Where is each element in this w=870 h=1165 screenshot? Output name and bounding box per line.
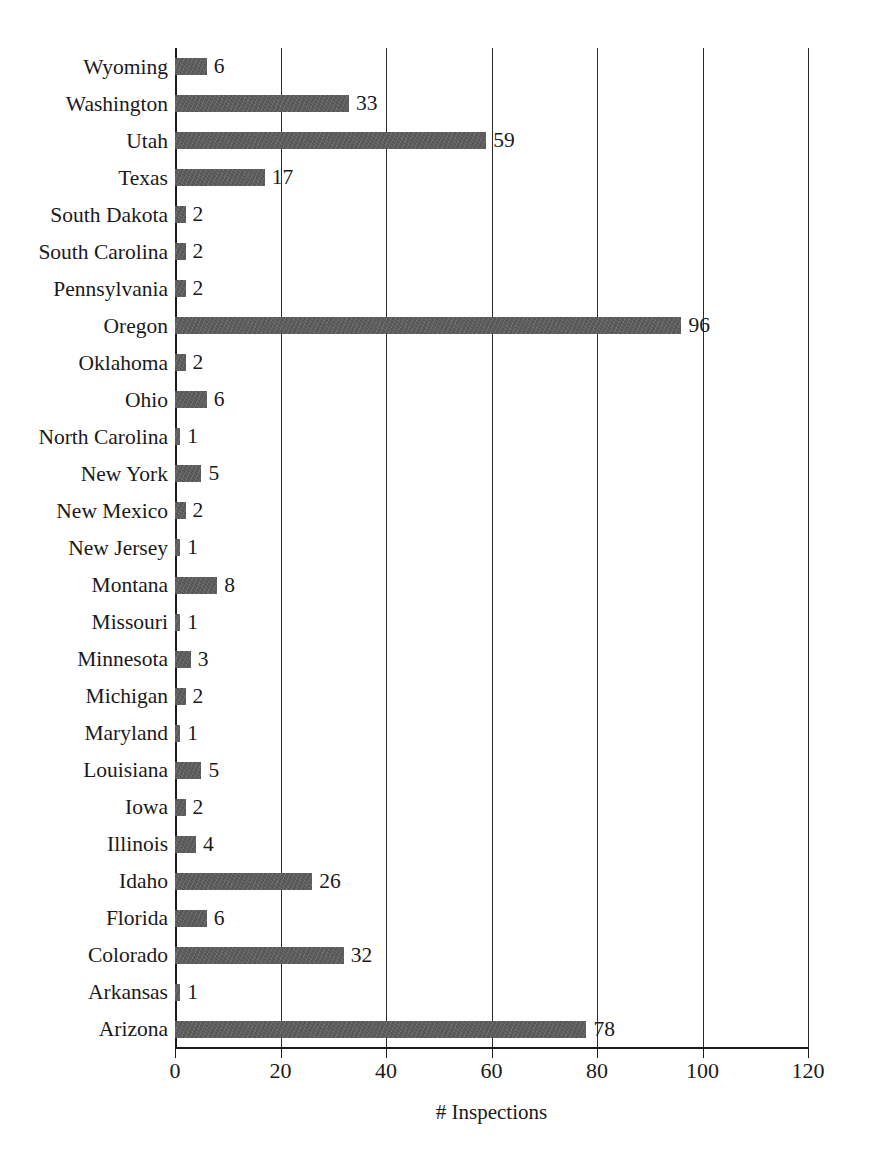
y-axis-tick-label-row: South Carolina (0, 233, 168, 270)
y-axis-tick-label: Illinois (107, 832, 168, 856)
bar-row: 59 (175, 122, 808, 159)
y-axis-tick-label-row: Louisiana (0, 752, 168, 789)
y-axis-tick-label-row: North Carolina (0, 418, 168, 455)
bar-row: 33 (175, 85, 808, 122)
bar (175, 169, 265, 186)
y-axis-tick-label-row: Wyoming (0, 48, 168, 85)
bar (175, 428, 180, 445)
bar-row: 5 (175, 752, 808, 789)
y-axis-tick-label-row: Ohio (0, 381, 168, 418)
bar-row: 3 (175, 641, 808, 678)
bar-row: 6 (175, 48, 808, 85)
bar-value-label: 1 (187, 981, 198, 1004)
bar-value-label: 26 (319, 870, 341, 893)
bar-value-label: 2 (193, 240, 204, 263)
x-axis-title: # Inspections (175, 1100, 808, 1124)
y-axis-tick-label: New York (81, 462, 168, 486)
bar-row: 5 (175, 455, 808, 492)
bar (175, 725, 180, 742)
x-axis-tick-0 (175, 1049, 176, 1058)
bar-row: 2 (175, 233, 808, 270)
x-axis-tick-label: 0 (170, 1058, 181, 1084)
y-axis-tick-label: North Carolina (38, 425, 168, 449)
x-axis-tick-40 (386, 1049, 387, 1058)
y-axis-tick-label: Oregon (104, 314, 168, 338)
bar-row: 17 (175, 159, 808, 196)
y-axis-tick-label: Washington (66, 92, 168, 116)
y-axis-tick-label: Louisiana (83, 758, 168, 782)
bar-value-label: 96 (688, 314, 710, 337)
bar-value-label: 33 (356, 92, 378, 115)
y-axis-tick-label: Ohio (125, 388, 168, 412)
bar (175, 688, 186, 705)
y-axis-tick-label-row: Florida (0, 900, 168, 937)
bar (175, 910, 207, 927)
x-axis-tick-label: 60 (481, 1058, 503, 1084)
bar-row: 1 (175, 604, 808, 641)
y-axis-tick-label-row: Minnesota (0, 641, 168, 678)
y-axis-tick-label: Maryland (84, 721, 168, 745)
gridline-120 (808, 48, 809, 1048)
y-axis-tick-label-row: Pennsylvania (0, 270, 168, 307)
y-axis-tick-label-row: Maryland (0, 715, 168, 752)
y-axis-tick-label-row: Utah (0, 122, 168, 159)
bar-row: 1 (175, 529, 808, 566)
bar (175, 243, 186, 260)
bar (175, 206, 186, 223)
y-axis-tick-label: Iowa (125, 795, 168, 819)
bar-value-label: 1 (187, 722, 198, 745)
bar-value-label: 1 (187, 611, 198, 634)
bar (175, 465, 201, 482)
y-axis-tick-label: Oklahoma (78, 351, 168, 375)
y-axis-tick-label-row: Colorado (0, 937, 168, 974)
bar-row: 4 (175, 826, 808, 863)
bar (175, 58, 207, 75)
y-axis-tick-label: New Mexico (56, 499, 168, 523)
y-axis-tick-label-row: Missouri (0, 604, 168, 641)
y-axis-tick-label: South Carolina (38, 240, 168, 264)
y-axis-tick-label-row: Oregon (0, 307, 168, 344)
bar (175, 280, 186, 297)
bar (175, 577, 217, 594)
y-axis-tick-label: South Dakota (50, 203, 168, 227)
y-axis-tick-label: Utah (126, 129, 168, 153)
bar-row: 8 (175, 567, 808, 604)
y-axis-tick-label: Michigan (86, 684, 168, 708)
y-axis-tick-label: Minnesota (77, 647, 168, 671)
bar-value-label: 6 (214, 55, 225, 78)
bar-value-label: 17 (272, 166, 294, 189)
y-axis-tick-label-row: Montana (0, 567, 168, 604)
y-axis-tick-label: Texas (118, 166, 168, 190)
y-axis-tick-label-row: Arizona (0, 1011, 168, 1048)
bar-value-label: 2 (193, 351, 204, 374)
bar-row: 2 (175, 196, 808, 233)
bar-value-label: 6 (214, 907, 225, 930)
y-axis-category-labels: WyomingWashingtonUtahTexasSouth DakotaSo… (0, 48, 168, 1048)
bar-value-label: 5 (208, 759, 219, 782)
bar (175, 799, 186, 816)
bar (175, 95, 349, 112)
plot-area: 6335917222962615218132152426632178 (175, 48, 808, 1048)
bar-row: 2 (175, 344, 808, 381)
y-axis-tick-label: Arizona (99, 1017, 168, 1041)
bar-row: 6 (175, 900, 808, 937)
y-axis-tick-label: Colorado (88, 943, 168, 967)
y-axis-tick-label-row: Arkansas (0, 974, 168, 1011)
y-axis-tick-label: New Jersey (68, 536, 168, 560)
bar-value-label: 1 (187, 425, 198, 448)
bar (175, 762, 201, 779)
bar (175, 391, 207, 408)
bar (175, 1021, 586, 1038)
bar-value-label: 78 (593, 1018, 615, 1041)
bar-row: 2 (175, 678, 808, 715)
bar (175, 651, 191, 668)
bar (175, 873, 312, 890)
x-axis-tick-100 (703, 1049, 704, 1058)
bar-value-label: 3 (198, 648, 209, 671)
bar-row: 96 (175, 307, 808, 344)
y-axis-tick-label-row: South Dakota (0, 196, 168, 233)
bar-value-label: 6 (214, 388, 225, 411)
y-axis-tick-label: Missouri (92, 610, 168, 634)
y-axis-tick-label: Wyoming (83, 55, 168, 79)
bar-value-label: 8 (224, 574, 235, 597)
